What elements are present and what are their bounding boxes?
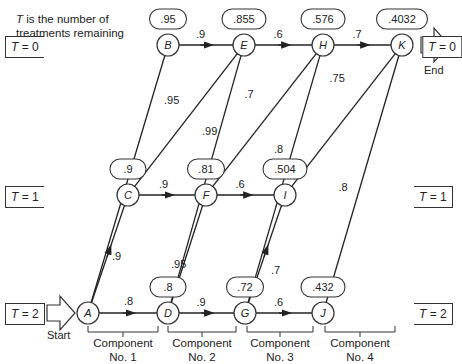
edge-label-F-I: .6 <box>236 178 245 190</box>
reliability-value-I: .504 <box>274 163 295 175</box>
component-label-line2: No. 1 <box>78 350 168 364</box>
node-label-D: D <box>164 307 172 319</box>
reliability-value-K: .4032 <box>388 13 416 25</box>
arrow-icon <box>107 249 110 257</box>
level-t2-label: = 2 <box>430 307 447 321</box>
arrow-icon <box>264 249 267 257</box>
level-var: T <box>11 307 18 321</box>
level-t0-label: = 0 <box>22 40 39 54</box>
level-t1-label: = 1 <box>22 190 39 204</box>
level-t1-label: = 1 <box>430 190 447 204</box>
reliability-value-F: .81 <box>198 163 213 175</box>
edge-label-J-K: .8 <box>339 181 348 193</box>
reliability-value-E: .855 <box>233 13 254 25</box>
level-t2-right: T = 2 <box>414 303 453 325</box>
node-label-H: H <box>319 39 327 51</box>
level-var: T <box>428 40 435 54</box>
reliability-value-D: .8 <box>163 281 172 293</box>
component-4-label: Component No. 4 <box>315 336 405 364</box>
reliability-value-G: .72 <box>237 281 252 293</box>
edge-label-D-E: .99 <box>202 125 217 137</box>
edge-label-F-H: .7 <box>245 88 254 100</box>
node-label-C: C <box>124 189 132 201</box>
component-label-line1: Component <box>315 336 405 350</box>
edge-label-C-F: .9 <box>159 178 168 190</box>
level-var: T <box>11 40 18 54</box>
level-var: T <box>419 307 426 321</box>
edge-label-D-G: .9 <box>197 296 206 308</box>
level-t0-label: = 0 <box>439 40 456 54</box>
start-arrow-icon <box>47 296 75 330</box>
end-caption: End <box>424 64 444 76</box>
edge-label-A-D: .8 <box>124 295 133 307</box>
component-1-label: Component No. 1 <box>78 336 168 364</box>
level-t0-right: T = 0 <box>422 36 462 58</box>
node-label-A: A <box>83 307 91 319</box>
component-2-label: Component No. 2 <box>157 336 247 364</box>
level-t0-left: T = 0 <box>5 36 44 58</box>
edge-label-A-C: .9 <box>112 250 121 262</box>
level-t1-right: T = 1 <box>414 186 453 208</box>
edge-label-B-E: .9 <box>196 28 205 40</box>
component-label-line1: Component <box>235 336 325 350</box>
reliability-value-C: .9 <box>123 163 132 175</box>
edge-label-C-E: .95 <box>164 94 179 106</box>
note-line1: is the number of <box>23 13 109 25</box>
edge-J-K <box>326 56 399 303</box>
edge-label-G-J: .6 <box>274 296 283 308</box>
level-t2-label: = 2 <box>22 307 39 321</box>
node-label-E: E <box>240 39 248 51</box>
edge-label-E-H: .6 <box>274 28 283 40</box>
edge-label-D-F: .95 <box>171 258 186 270</box>
level-var: T <box>11 190 18 204</box>
component-label-line1: Component <box>157 336 247 350</box>
reliability-value-B: .95 <box>160 13 175 25</box>
node-label-B: B <box>164 39 171 51</box>
edge-label-H-K: .7 <box>353 28 362 40</box>
reliability-value-H: .576 <box>312 13 333 25</box>
edge-label-G-H: .8 <box>274 143 283 155</box>
level-var: T <box>419 190 426 204</box>
component-3-label: Component No. 3 <box>235 336 325 364</box>
level-t1-left: T = 1 <box>5 186 44 208</box>
node-label-K: K <box>398 39 406 51</box>
level-t2-left: T = 2 <box>5 303 45 325</box>
edge-label-I-K: .75 <box>330 72 345 84</box>
component-label-line2: No. 2 <box>157 350 247 364</box>
node-label-I: I <box>283 189 286 201</box>
start-caption: Start <box>47 329 70 341</box>
edge-label-G-I: .7 <box>271 264 280 276</box>
note-variable: T <box>16 13 23 25</box>
component-label-line1: Component <box>78 336 168 350</box>
node-label-G: G <box>241 307 250 319</box>
node-label-J: J <box>319 307 326 319</box>
component-label-line2: No. 3 <box>235 350 325 364</box>
reliability-value-J: .432 <box>312 281 333 293</box>
component-label-line2: No. 4 <box>315 350 405 364</box>
